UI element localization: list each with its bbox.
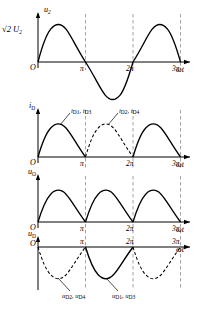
x-axis-label-wt: ωt: [176, 160, 185, 169]
x-axis-arrow: [184, 60, 190, 65]
curve-label-iD1-iD3: iD1, iD3: [71, 107, 92, 115]
tick-pi: π: [80, 64, 84, 73]
tick-2pi: 2π: [126, 64, 134, 73]
tick-pi: π: [80, 224, 84, 233]
leader-iD2: [108, 113, 118, 125]
curve-uO-hump1: [38, 190, 86, 222]
curve-uD2-uD4-hump2: [133, 247, 181, 279]
origin-label: O: [30, 158, 36, 167]
peak-label-sqrt2u2: √2 U2: [2, 24, 22, 35]
curve-uD1-uD3-hump: [86, 247, 134, 279]
tick-pi: π: [80, 237, 84, 246]
y-axis-label-iD: iD: [29, 101, 35, 111]
origin-label: O: [30, 63, 36, 72]
panel-uD: uD O π 2π 3π ωt uD2, uD4 uD1, uD3: [28, 229, 190, 300]
x-axis-label-wt: ωt: [176, 225, 185, 234]
x-axis-arrow: [184, 220, 190, 225]
y-axis-label-u2: u2: [44, 5, 51, 15]
curve-label-iD2-iD4: iD2, iD4: [119, 107, 140, 115]
x-axis-arrow: [184, 155, 190, 160]
panel-iD: iD O iD1, iD3 iD2, iD4 π 2π 3π ωt: [29, 101, 190, 170]
y-axis-arrow: [36, 236, 40, 242]
tick-2pi: 2π: [126, 224, 134, 233]
leader-uD2: [58, 278, 70, 291]
curve-iD1-iD3-hump1: [38, 124, 86, 157]
y-axis-label-uO: uO: [28, 167, 36, 177]
curve-iD2-iD4-hump: [86, 124, 134, 157]
tick-pi: π: [80, 159, 84, 168]
curve-uD2-uD4-hump1: [38, 247, 86, 279]
curve-uO-hump3: [133, 190, 181, 222]
panel-u2: u2 O √2 U2 π 2π 3π ωt: [2, 5, 190, 100]
curve-label-uD2-uD4: uD2, uD4: [62, 292, 85, 300]
y-axis-arrow: [36, 12, 40, 18]
x-axis-label-wt: ωt: [176, 65, 185, 74]
curve-iD1-iD3-hump2: [133, 124, 181, 157]
curve-uO-hump2: [86, 190, 134, 222]
panel-uO: uO O π 2π 3π ωt: [28, 167, 190, 234]
origin-label: O: [30, 239, 36, 248]
curve-label-uD1-uD3: uD1, uD3: [112, 292, 135, 300]
y-axis-arrow: [36, 108, 40, 114]
leader-iD1: [60, 113, 70, 125]
tick-2pi: 2π: [126, 159, 134, 168]
x-axis-label-wt: ωt: [176, 245, 185, 254]
leader-uD1: [106, 278, 118, 291]
tick-2pi: 2π: [126, 237, 134, 246]
x-axis-arrow: [184, 245, 190, 250]
waveform-figure: u2 O √2 U2 π 2π 3π ωt iD O iD1, iD3 iD2,…: [0, 0, 199, 311]
y-axis-arrow: [36, 174, 40, 180]
